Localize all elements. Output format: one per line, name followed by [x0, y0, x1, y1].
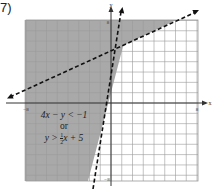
steep-line-arrow-icon [119, 7, 125, 13]
inequality-connector: or [36, 121, 92, 132]
inequality-line-2-prefix: y > [45, 133, 60, 143]
coordinate-graph: yx−888−8 [0, 0, 212, 189]
x-axis-arrow-icon [202, 101, 208, 106]
x-axis-label: x [209, 100, 212, 106]
x-min-tick-label: −8 [23, 107, 29, 112]
y-axis-label: y [110, 2, 113, 8]
y-min-tick-label: −8 [104, 177, 110, 182]
inequality-line-1: 4x − y < −1 [36, 110, 92, 121]
inequality-label: 4x − y < −1 or y > 12x + 5 [36, 110, 92, 145]
inequality-line-2-suffix: x + 5 [63, 133, 83, 143]
inequality-line-2: y > 12x + 5 [36, 132, 92, 145]
